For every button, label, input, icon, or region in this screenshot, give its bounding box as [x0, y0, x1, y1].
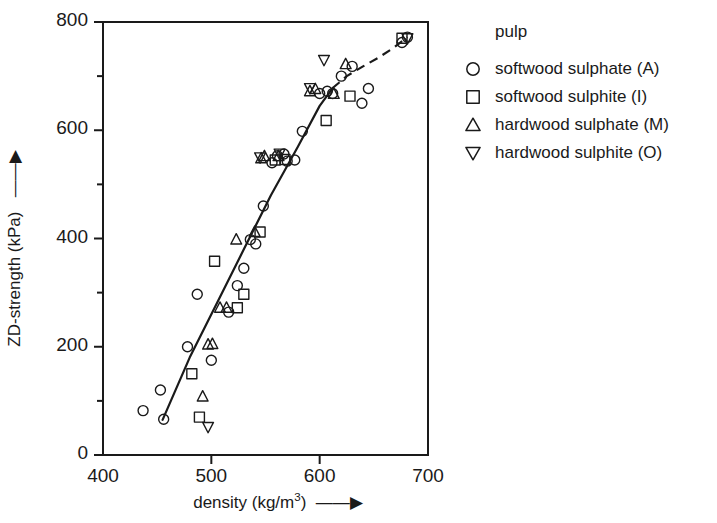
data-point-i	[187, 369, 197, 379]
data-point-m	[340, 58, 351, 68]
chart-figure: ZD-strength (kPa) ——▶ density (kg/m3) ——…	[0, 0, 717, 523]
y-axis-arrow: ——▶	[5, 150, 24, 206]
data-point-a	[138, 406, 148, 416]
circle-marker-icon	[463, 59, 489, 79]
x-tick-label: 700	[398, 465, 458, 487]
legend-entry-1[interactable]: softwood sulphate (A)	[463, 56, 713, 81]
data-point-m	[231, 234, 242, 244]
legend-entry-3[interactable]: hardwood sulphate (M)	[463, 112, 713, 137]
data-point-a	[357, 98, 367, 108]
data-point-i	[345, 91, 355, 101]
data-point-i	[321, 116, 331, 126]
x-axis-arrow: ——▶	[311, 493, 363, 512]
data-point-i	[239, 289, 249, 299]
x-tick-label: 500	[181, 465, 241, 487]
y-tick-label: 800	[32, 9, 88, 31]
data-point-a	[155, 385, 165, 395]
legend-entry-list: softwood sulphate (A)softwood sulphite (…	[463, 56, 713, 165]
plot-frame	[103, 22, 428, 455]
trend-line-solid	[163, 88, 333, 420]
data-point-o	[203, 422, 214, 432]
data-point-a	[239, 263, 249, 273]
data-point-m	[197, 391, 208, 401]
x-axis-title: density (kg/m3) ——▶	[148, 492, 408, 513]
legend-entry-label: softwood sulphite (I)	[495, 87, 647, 107]
y-axis-title: ZD-strength (kPa) ——▶	[4, 149, 25, 349]
data-point-o	[319, 55, 330, 65]
x-tick-label: 400	[73, 465, 133, 487]
legend-entry-4[interactable]: hardwood sulphite (O)	[463, 140, 713, 165]
data-point-a	[192, 289, 202, 299]
y-tick-label: 200	[32, 334, 88, 356]
data-point-i	[210, 256, 220, 266]
y-tick-label: 0	[32, 442, 88, 464]
triangle-down-marker-icon	[463, 143, 489, 163]
legend-entry-2[interactable]: softwood sulphite (I)	[463, 84, 713, 109]
x-tick-label: 600	[290, 465, 350, 487]
x-axis-title-text: density (kg/m3)	[193, 493, 306, 512]
y-tick-label: 400	[32, 226, 88, 248]
triangle-up-marker-icon	[463, 115, 489, 135]
legend: pulp softwood sulphate (A)softwood sulph…	[463, 22, 713, 168]
y-axis-title-text: ZD-strength (kPa)	[5, 212, 24, 347]
y-tick-label: 600	[32, 117, 88, 139]
data-point-a	[336, 71, 346, 81]
data-point-i	[194, 412, 204, 422]
legend-title: pulp	[495, 22, 713, 42]
data-point-a	[363, 84, 373, 94]
data-point-a	[183, 342, 193, 352]
data-point-a	[206, 355, 216, 365]
legend-entry-label: softwood sulphate (A)	[495, 59, 659, 79]
legend-entry-label: hardwood sulphate (M)	[495, 115, 669, 135]
square-marker-icon	[463, 87, 489, 107]
legend-entry-label: hardwood sulphite (O)	[495, 143, 662, 163]
